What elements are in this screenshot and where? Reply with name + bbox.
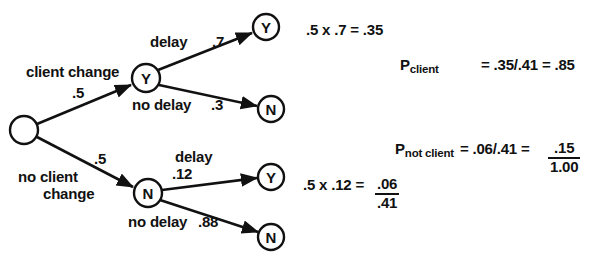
p-client-letter: P (400, 56, 410, 73)
joint-sum-denominator: .41 (375, 195, 399, 211)
node-label-y1: Y (141, 70, 151, 87)
p-client-value: = .35/.41 = .85 (481, 57, 575, 72)
p-not-client-subscript: not client (405, 147, 454, 159)
joint-sum-numerator: .06 (375, 176, 399, 195)
node-label-leaf-2: N (266, 101, 277, 118)
edge-label-no-client-change-line1: no client (18, 169, 78, 184)
node-root (10, 116, 38, 144)
p-not-client-symbol: Pnot client= .06/.41 = (395, 141, 529, 157)
edge-prob-client-change: .5 (72, 85, 84, 100)
node-label-leaf-1: Y (261, 19, 271, 36)
edge-label-no-delay-lower: no delay (128, 214, 187, 229)
edge-label-delay-upper: delay (150, 34, 187, 49)
p-not-client-letter: P (395, 140, 405, 157)
edge-prob-no-delay-upper: .3 (211, 97, 223, 112)
node-label-leaf-3: Y (266, 169, 276, 186)
calc-joint-client-delay: .5 x .7 = .35 (306, 22, 383, 37)
p-client-symbol: Pclient (400, 57, 439, 73)
diagram-canvas: Y N Y N Y N client change .5 no client c… (0, 0, 608, 264)
posterior-sum-numerator: .15 (548, 140, 580, 159)
edge-prob-delay-upper: .7 (212, 34, 224, 49)
edge-prob-no-delay-lower: .88 (198, 214, 218, 229)
posterior-sum-denominator: 1.00 (548, 159, 580, 175)
p-client-subscript: client (410, 63, 439, 75)
edge-label-no-client-change-line2: change (43, 186, 94, 201)
p-not-client-value: = .06/.41 = (460, 140, 530, 157)
edge-label-delay-lower: delay (175, 149, 212, 164)
probability-tree-svg: Y N Y N Y N (0, 0, 608, 264)
node-label-n1: N (143, 185, 154, 202)
edge-prob-delay-lower: .12 (172, 166, 192, 181)
edge-label-no-delay-upper: no delay (132, 97, 191, 112)
posterior-sum-fraction: .15 1.00 (548, 140, 580, 175)
edge-prob-no-client-change: .5 (94, 151, 106, 166)
joint-sum-fraction: .06 .41 (375, 176, 399, 211)
node-label-leaf-4: N (266, 229, 277, 246)
calc-joint-not-client-delay: .5 x .12 = (303, 177, 364, 192)
edge-label-client-change: client change (26, 64, 119, 79)
